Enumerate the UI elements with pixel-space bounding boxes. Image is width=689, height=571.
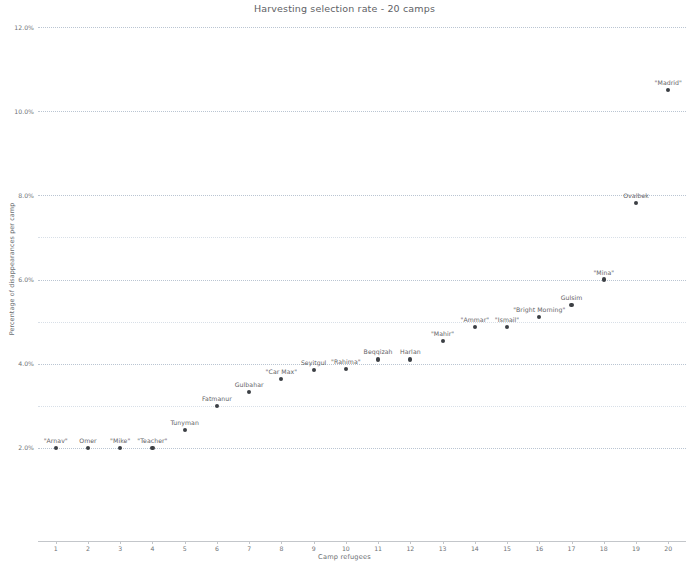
x-tick-label: 10 [336,545,356,552]
scatter-point-label: Fatmanur [202,395,232,402]
x-tick-mark [281,541,282,544]
scatter-point[interactable] [537,315,541,319]
x-tick-mark [88,541,89,544]
scatter-point[interactable] [505,325,509,329]
x-tick-label: 6 [207,545,227,552]
x-tick-mark [314,541,315,544]
scatter-point[interactable] [118,446,122,450]
x-tick-label: 11 [368,545,388,552]
x-tick-mark [378,541,379,544]
x-tick-label: 4 [142,545,162,552]
x-tick-label: 12 [400,545,420,552]
x-tick-label: 17 [562,545,582,552]
scatter-point-label: Beqqizah [364,348,393,355]
scatter-point[interactable] [312,368,316,372]
scatter-point[interactable] [569,303,573,307]
scatter-point-label: Gulbahar [235,381,264,388]
scatter-point[interactable] [54,446,58,450]
scatter-point[interactable] [247,390,251,394]
x-tick-label: 13 [433,545,453,552]
y-gridline [38,448,686,449]
y-tick-label: 12.0% [0,24,34,31]
x-tick-label: 20 [658,545,678,552]
scatter-point[interactable] [473,325,477,329]
x-tick-mark [56,541,57,544]
scatter-point[interactable] [215,404,219,408]
x-tick-mark [346,541,347,544]
x-tick-mark [507,541,508,544]
scatter-point-label: "Mahir" [431,330,454,337]
y-gridline [38,195,686,196]
x-tick-mark [185,541,186,544]
x-tick-label: 1 [46,545,66,552]
x-tick-label: 19 [626,545,646,552]
y-tick-label: 2.0% [0,444,34,451]
x-tick-label: 5 [175,545,195,552]
x-tick-mark [475,541,476,544]
scatter-point[interactable] [183,428,187,432]
x-tick-mark [572,541,573,544]
scatter-point-label: Gulsim [561,294,583,301]
chart-title: Harvesting selection rate - 20 camps [0,3,689,14]
scatter-point-label: "Mina" [593,269,614,276]
y-gridline [38,364,686,365]
x-tick-mark [120,541,121,544]
x-tick-mark [668,541,669,544]
x-tick-mark [410,541,411,544]
scatter-point-label: "Ismail" [495,316,519,323]
y-gridline [38,111,686,112]
x-tick-mark [217,541,218,544]
scatter-point[interactable] [408,357,412,361]
scatter-point-label: "Bright Morning" [513,306,565,313]
scatter-point-label: Tunyman [170,419,198,426]
scatter-point-label: Seyitgul [301,359,327,366]
scatter-point[interactable] [86,446,90,450]
x-tick-mark [152,541,153,544]
y-gridline-minor [38,322,686,323]
scatter-point-label: Omer [79,437,96,444]
y-tick-label: 8.0% [0,192,34,199]
y-gridline-minor [38,406,686,407]
x-tick-mark [539,541,540,544]
x-tick-label: 8 [271,545,291,552]
scatter-point-label: "Madrid" [655,79,682,86]
x-axis-line [38,541,686,542]
y-gridline [38,27,686,28]
x-tick-label: 18 [594,545,614,552]
scatter-point[interactable] [602,277,606,281]
y-tick-label: 10.0% [0,108,34,115]
x-tick-label: 3 [110,545,130,552]
x-tick-mark [636,541,637,544]
scatter-point-label: "Ammar" [460,316,489,323]
x-tick-label: 14 [465,545,485,552]
x-tick-label: 15 [497,545,517,552]
scatter-point[interactable] [666,88,670,92]
chart-figure: Harvesting selection rate - 20 camps Per… [0,0,689,571]
x-tick-label: 16 [529,545,549,552]
scatter-point-label: "Mike" [110,437,130,444]
scatter-point[interactable] [634,201,638,205]
plot-area: 2.0%4.0%6.0%8.0%10.0%12.0%12345678910111… [38,27,686,532]
x-tick-label: 9 [304,545,324,552]
x-tick-label: 7 [239,545,259,552]
scatter-point-label: "Car Max" [266,368,298,375]
x-tick-label: 2 [78,545,98,552]
scatter-point-label: Ovalbek [623,192,649,199]
scatter-point-label: Harlan [400,348,421,355]
scatter-point[interactable] [376,357,380,361]
scatter-point[interactable] [279,377,283,381]
y-gridline-minor [38,237,686,238]
scatter-point-label: "Arnav" [44,437,68,444]
scatter-point-label: "Rahima" [331,358,361,365]
y-gridline [38,280,686,281]
x-axis-label: Camp refugees [0,553,689,561]
scatter-point-label: "Teacher" [137,437,167,444]
x-tick-mark [443,541,444,544]
x-tick-mark [249,541,250,544]
y-axis-label: Percentage of disappearances per camp [8,169,16,369]
scatter-point[interactable] [441,339,445,343]
x-tick-mark [604,541,605,544]
scatter-point[interactable] [344,367,348,371]
y-tick-label: 6.0% [0,276,34,283]
scatter-point[interactable] [150,446,154,450]
